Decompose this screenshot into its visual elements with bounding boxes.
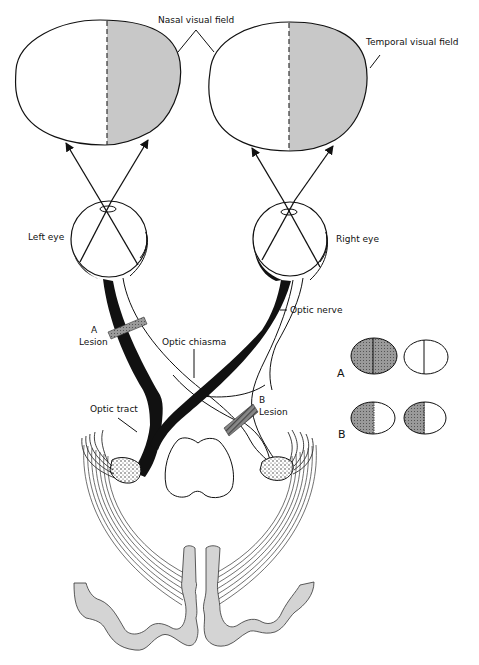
right-eye-rays [252, 146, 333, 267]
nasal-field-pointer [178, 30, 214, 52]
left-visual-field [16, 10, 187, 150]
midbrain-section [165, 438, 233, 498]
right-visual-cortex [203, 546, 314, 646]
lesion-b-marker [224, 404, 258, 436]
defect-b-right-eye [403, 400, 446, 436]
defect-a-right-eye [404, 340, 448, 374]
defect-row-b-label: B [338, 428, 346, 441]
temporal-field-pointer [370, 55, 380, 68]
left-lateral-geniculate [82, 430, 141, 483]
temporal-visual-field-label: Temporal visual field [365, 37, 459, 47]
right-eye-label: Right eye [336, 234, 379, 244]
lesion-b-letter: B [259, 395, 265, 405]
lesion-a-label: Lesion [79, 337, 108, 347]
left-eye-rays [66, 140, 148, 265]
optic-tract-label: Optic tract [90, 404, 138, 414]
optic-tract-pointer [118, 418, 137, 432]
left-eye [71, 201, 147, 280]
defect-a-left-eye [351, 338, 397, 374]
visual-pathway-diagram: Nasal visual field Temporal visual field… [0, 0, 479, 665]
optic-pathway [103, 278, 303, 478]
optic-nerve-label: Optic nerve [290, 305, 343, 315]
nasal-visual-field-label: Nasal visual field [158, 15, 234, 25]
optic-chiasma-label: Optic chiasma [162, 337, 226, 347]
defect-b-left-eye [350, 400, 395, 436]
lesion-a-letter: A [91, 325, 98, 335]
left-eye-label: Left eye [28, 232, 65, 242]
lesion-b-label: Lesion [259, 407, 288, 417]
right-visual-field [209, 10, 379, 160]
right-lateral-geniculate [260, 430, 313, 480]
defect-row-a-label: A [337, 367, 345, 380]
